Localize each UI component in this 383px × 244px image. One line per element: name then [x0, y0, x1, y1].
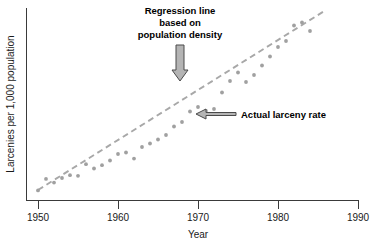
actual-rate-annotation: Actual larceny rate: [196, 109, 326, 120]
regression-annotation-line2: based on: [159, 17, 201, 28]
left-arrow-icon: [196, 109, 236, 119]
regression-annotation-line3: population density: [138, 29, 223, 40]
data-point: [100, 163, 104, 167]
data-point: [132, 157, 136, 161]
larceny-rate-scatter-figure: 1950 1960 1970 1980 1990 Year Larcenies …: [0, 0, 383, 244]
x-tick-label-2: 1970: [187, 212, 210, 223]
data-point: [52, 181, 56, 185]
regression-annotation: Regression line based on population dens…: [138, 5, 223, 81]
x-tick-label-1: 1960: [107, 212, 130, 223]
data-point: [68, 173, 72, 177]
data-point: [188, 110, 192, 114]
data-point: [276, 45, 280, 49]
data-point: [36, 189, 40, 193]
data-point: [268, 55, 272, 59]
chart-canvas: 1950 1960 1970 1980 1990 Year Larcenies …: [0, 0, 383, 244]
data-point: [252, 73, 256, 77]
data-point: [300, 21, 304, 25]
data-point: [92, 167, 96, 171]
x-tick-label-3: 1980: [267, 212, 290, 223]
data-point: [116, 152, 120, 156]
data-point: [44, 177, 48, 181]
x-tick-label-4: 1990: [347, 212, 370, 223]
data-point: [156, 138, 160, 142]
data-point: [220, 91, 224, 95]
data-point: [308, 29, 312, 33]
data-point: [244, 80, 248, 84]
x-axis-title: Year: [188, 229, 209, 240]
data-point: [292, 24, 296, 28]
x-tick-label-group: 1950 1960 1970 1980 1990: [27, 212, 370, 223]
data-point: [84, 162, 88, 166]
data-point: [260, 64, 264, 68]
y-axis-title: Larcenies per 1,000 population: [5, 35, 16, 172]
data-point: [284, 39, 288, 43]
data-point: [164, 133, 168, 137]
data-point: [124, 151, 128, 155]
x-tick-group: [39, 201, 359, 209]
regression-annotation-line1: Regression line: [145, 5, 216, 16]
data-point: [236, 71, 240, 75]
data-point: [196, 105, 200, 109]
data-point: [212, 107, 216, 111]
data-point: [148, 142, 152, 146]
data-point: [60, 176, 64, 180]
data-point: [228, 79, 232, 83]
data-point: [180, 120, 184, 124]
data-point: [140, 145, 144, 149]
scatter-points-group: [36, 21, 312, 193]
down-arrow-icon: [172, 45, 188, 81]
x-tick-label-0: 1950: [27, 212, 50, 223]
data-point: [108, 159, 112, 163]
data-point: [76, 174, 80, 178]
data-point: [172, 125, 176, 129]
actual-rate-label: Actual larceny rate: [241, 109, 326, 120]
